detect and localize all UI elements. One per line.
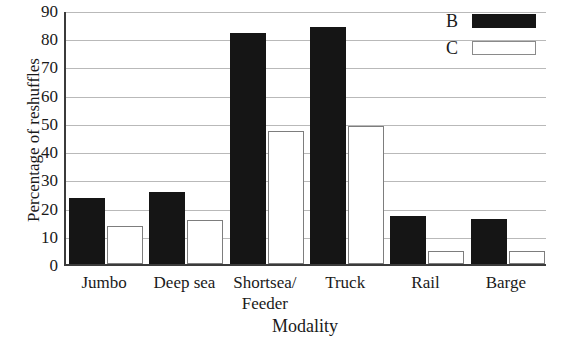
y-axis-tick-labels: 9080706050403020100	[20, 0, 58, 346]
y-axis-tick-label: 40	[24, 144, 58, 161]
x-tick-line-1: Deep sea	[154, 273, 216, 292]
bar-series-c	[107, 226, 143, 264]
y-axis-tick-label: 10	[24, 229, 58, 246]
x-tick-line-1: Rail	[411, 273, 439, 292]
bar-series-b	[471, 219, 507, 264]
x-tick-line-1: Shortsea/	[233, 273, 296, 292]
chart-legend: BC	[394, 10, 542, 68]
x-axis-tick-labels: JumboDeep seaShortsea/FeederTruckRailBar…	[64, 272, 546, 318]
legend-swatch-b	[472, 14, 536, 28]
bar-series-c	[509, 251, 545, 264]
x-tick-line-2: Feeder	[225, 293, 305, 314]
bar-series-c	[348, 126, 384, 264]
bar-series-c	[268, 131, 304, 264]
bar-series-b	[310, 27, 346, 264]
x-axis-title: Modality	[64, 316, 546, 337]
bar-group	[227, 12, 307, 264]
x-tick-line-1: Barge	[486, 273, 526, 292]
bar-group	[146, 12, 226, 264]
y-axis-tick-label: 80	[24, 31, 58, 48]
x-tick-line-1: Jumbo	[81, 273, 126, 292]
bar-series-c	[187, 220, 223, 264]
x-axis-tick-label: Truck	[305, 272, 385, 293]
y-axis-tick-label: 90	[24, 3, 58, 20]
legend-swatch-c	[472, 41, 536, 55]
bar-series-b	[149, 192, 185, 264]
y-axis-tick-label: 30	[24, 172, 58, 189]
bar-series-b	[390, 216, 426, 264]
bar-chart-figure: Percentage of reshuffles 908070605040302…	[0, 0, 563, 346]
legend-entry[interactable]: C	[394, 37, 542, 63]
bar-series-c	[428, 251, 464, 264]
x-axis-tick-label: Barge	[466, 272, 546, 293]
x-axis-tick-label: Rail	[385, 272, 465, 293]
bar-group	[66, 12, 146, 264]
bar-series-b	[69, 198, 105, 264]
legend-label: C	[446, 37, 458, 59]
x-tick-line-1: Truck	[325, 273, 365, 292]
y-axis-tick-label: 60	[24, 88, 58, 105]
legend-entry[interactable]: B	[394, 10, 542, 36]
y-axis-tick-label: 0	[24, 257, 58, 274]
x-axis-tick-label: Jumbo	[64, 272, 144, 293]
y-axis-tick-label: 50	[24, 116, 58, 133]
y-axis-tick-label: 20	[24, 201, 58, 218]
x-axis-tick-label: Shortsea/Feeder	[225, 272, 305, 314]
x-axis-tick-label: Deep sea	[144, 272, 224, 293]
bar-group	[307, 12, 387, 264]
bar-series-b	[230, 33, 266, 264]
legend-label: B	[446, 10, 458, 32]
y-axis-tick-label: 70	[24, 59, 58, 76]
